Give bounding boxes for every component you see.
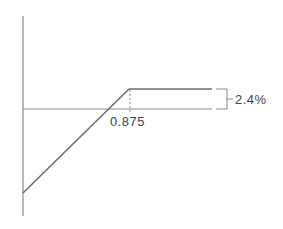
payoff-diagram: 0.875 2.4% <box>0 0 283 229</box>
cap-label: 2.4% <box>235 92 267 107</box>
cap-bracket <box>216 89 233 109</box>
kink-label: 0.875 <box>110 114 145 129</box>
payoff-slope <box>23 89 129 193</box>
